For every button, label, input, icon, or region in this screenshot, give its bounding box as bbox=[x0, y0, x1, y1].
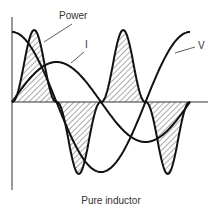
waveform-diagram bbox=[0, 0, 222, 218]
current-label: I bbox=[85, 39, 88, 50]
power-leader-line bbox=[44, 24, 72, 42]
power-label: Power bbox=[59, 10, 87, 21]
voltage-label: V bbox=[198, 40, 205, 51]
voltage-leader-line bbox=[175, 47, 195, 53]
current-leader-line bbox=[71, 52, 84, 63]
diagram-caption: Pure inductor bbox=[0, 195, 222, 206]
